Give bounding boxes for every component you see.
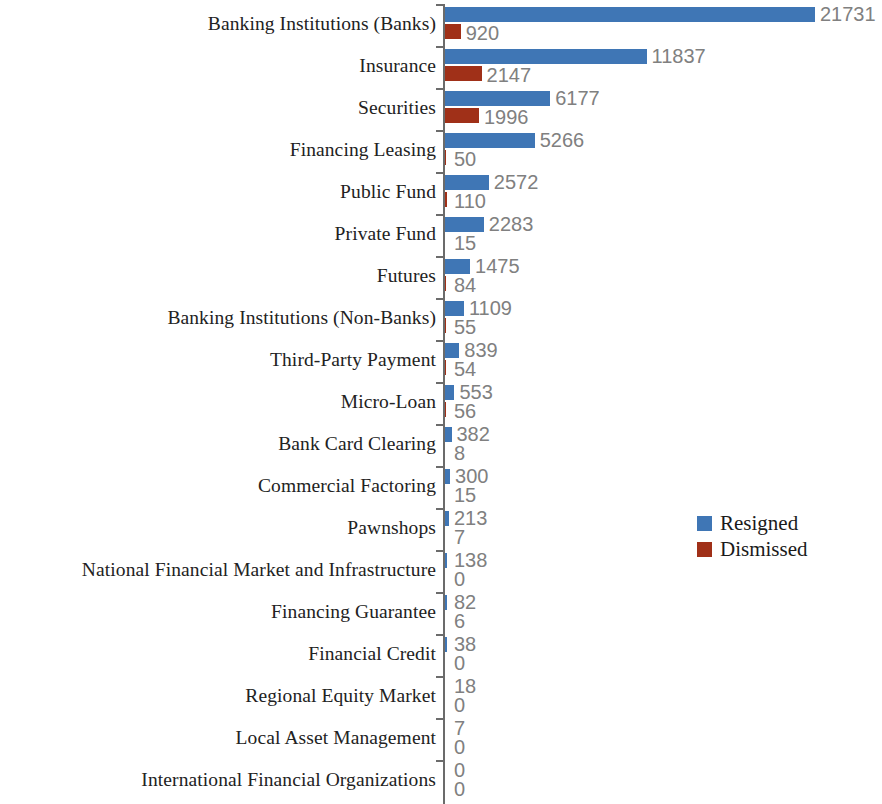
value-label-resigned: 21731 <box>820 4 876 24</box>
axis-tick <box>436 676 444 678</box>
category-label: National Financial Market and Infrastruc… <box>0 559 436 581</box>
value-label-resigned: 553 <box>459 382 492 402</box>
value-label-resigned: 1109 <box>469 298 512 318</box>
bar-row: Futures147584 <box>0 256 882 298</box>
value-label-resigned: 1475 <box>475 256 520 276</box>
value-label-dismissed: 0 <box>454 779 465 799</box>
bar-resigned <box>445 175 489 190</box>
category-label: Financing Leasing <box>0 139 436 161</box>
category-label: Private Fund <box>0 223 436 245</box>
bar-dismissed <box>445 318 446 333</box>
axis-tick <box>436 382 444 384</box>
bar-row: Securities61771996 <box>0 88 882 130</box>
axis-tick <box>436 340 444 342</box>
bar-row: Insurance118372147 <box>0 46 882 88</box>
category-label: Bank Card Clearing <box>0 433 436 455</box>
category-label: Local Asset Management <box>0 727 436 749</box>
axis-tick <box>436 256 444 258</box>
legend-label-resigned: Resigned <box>720 511 798 536</box>
value-label-dismissed: 2147 <box>487 65 532 85</box>
category-label: Banking Institutions (Banks) <box>0 13 436 35</box>
value-label-resigned: 0 <box>454 760 465 780</box>
value-label-resigned: 2572 <box>494 172 539 192</box>
value-label-dismissed: 0 <box>454 695 465 715</box>
bar-resigned <box>445 133 535 148</box>
bar-dismissed <box>445 66 482 81</box>
value-label-dismissed: 56 <box>454 401 476 421</box>
axis-tick <box>436 298 444 300</box>
category-label: Securities <box>0 97 436 119</box>
bar-row: Commercial Factoring30015 <box>0 466 882 508</box>
value-label-resigned: 11837 <box>652 46 706 66</box>
category-label: Third-Party Payment <box>0 349 436 371</box>
value-label-dismissed: 54 <box>454 359 476 379</box>
legend-swatch-resigned-icon <box>697 516 712 531</box>
bar-row: Bank Card Clearing3828 <box>0 424 882 466</box>
bar-resigned <box>445 91 550 106</box>
bar-resigned <box>445 595 447 610</box>
bar-resigned <box>445 469 450 484</box>
value-label-dismissed: 50 <box>454 149 476 169</box>
category-label: Futures <box>0 265 436 287</box>
bar-row: Third-Party Payment83954 <box>0 340 882 382</box>
axis-tick <box>436 424 444 426</box>
bar-resigned <box>445 637 447 652</box>
bar-row: Banking Institutions (Non-Banks)110955 <box>0 298 882 340</box>
bar-resigned <box>445 301 464 316</box>
bar-row: Financing Leasing526650 <box>0 130 882 172</box>
category-label: Insurance <box>0 55 436 77</box>
value-label-resigned: 18 <box>454 676 476 696</box>
axis-tick <box>436 718 444 720</box>
axis-tick <box>436 172 444 174</box>
axis-tick <box>436 592 444 594</box>
value-label-resigned: 382 <box>457 424 490 444</box>
value-label-dismissed: 15 <box>454 485 476 505</box>
plot-area: Banking Institutions (Banks)21731920Insu… <box>0 0 882 804</box>
category-label: Financing Guarantee <box>0 601 436 623</box>
bar-resigned <box>445 427 452 442</box>
bar-row: Public Fund2572110 <box>0 172 882 214</box>
value-label-resigned: 138 <box>454 550 487 570</box>
axis-tick <box>436 760 444 762</box>
value-label-resigned: 5266 <box>540 130 585 150</box>
axis-tick <box>436 4 444 6</box>
category-label: Financial Credit <box>0 643 436 665</box>
category-label: Regional Equity Market <box>0 685 436 707</box>
axis-tick <box>436 88 444 90</box>
bar-resigned <box>445 553 447 568</box>
value-label-resigned: 38 <box>454 634 476 654</box>
value-label-dismissed: 15 <box>454 233 476 253</box>
bar-dismissed <box>445 402 446 417</box>
legend-item-dismissed: Dismissed <box>697 536 808 562</box>
bar-resigned <box>445 49 647 64</box>
axis-tick <box>436 46 444 48</box>
legend-label-dismissed: Dismissed <box>720 537 808 562</box>
bar-row: Regional Equity Market180 <box>0 676 882 718</box>
bar-dismissed <box>445 192 447 207</box>
bar-resigned <box>445 385 454 400</box>
value-label-resigned: 213 <box>454 508 487 528</box>
value-label-dismissed: 0 <box>454 653 465 673</box>
bar-resigned <box>445 217 484 232</box>
value-label-resigned: 2283 <box>489 214 534 234</box>
value-label-resigned: 839 <box>464 340 497 360</box>
bar-row: International Financial Organizations00 <box>0 760 882 802</box>
category-label: Public Fund <box>0 181 436 203</box>
axis-tick <box>436 550 444 552</box>
bar-resigned <box>445 343 459 358</box>
bar-resigned <box>445 259 470 274</box>
bar-row: Banking Institutions (Banks)21731920 <box>0 4 882 46</box>
bar-resigned <box>445 7 815 22</box>
value-label-dismissed: 7 <box>454 527 465 547</box>
legend-item-resigned: Resigned <box>697 510 808 536</box>
bar-dismissed <box>445 150 446 165</box>
bar-row: Financial Credit380 <box>0 634 882 676</box>
value-label-dismissed: 110 <box>454 191 486 211</box>
category-label: Micro-Loan <box>0 391 436 413</box>
bar-row: Micro-Loan55356 <box>0 382 882 424</box>
value-label-dismissed: 0 <box>454 737 465 757</box>
value-label-dismissed: 55 <box>454 317 476 337</box>
value-label-dismissed: 6 <box>454 611 465 631</box>
value-label-resigned: 300 <box>455 466 488 486</box>
category-label: Pawnshops <box>0 517 436 539</box>
